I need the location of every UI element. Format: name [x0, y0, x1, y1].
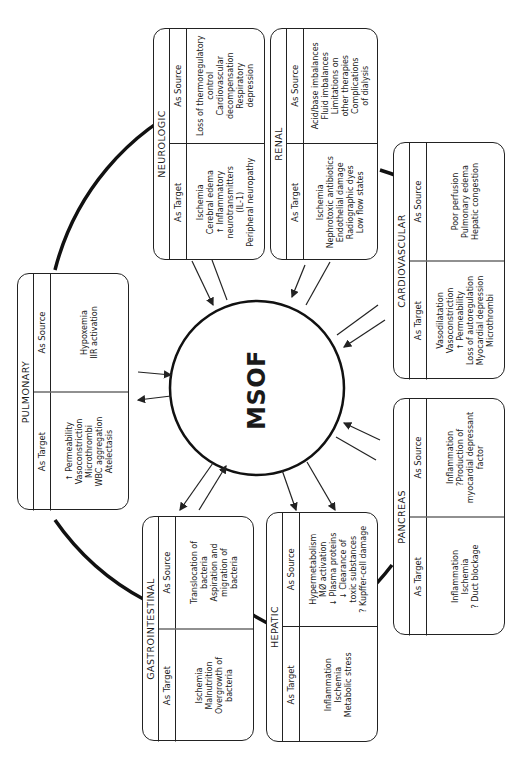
organ-title: PANCREAS: [393, 398, 410, 635]
as-source-column: As Source Inflammation ?Production of my…: [410, 398, 505, 517]
organ-box-cardiovascular: CARDIOVASCULAR As Target Vasodilatation …: [393, 142, 505, 379]
organ-title: RENAL: [270, 28, 287, 260]
as-target-column: As Target ↑ Permeability Vasoconstrictio…: [34, 392, 129, 510]
as-target-column: As Target Ischemia Cerebral edema ↑ Infl…: [170, 145, 265, 261]
organ-box-renal: RENAL As Target Ischemia Nephrotoxic ant…: [270, 28, 378, 260]
organ-title: HEPATIC: [266, 512, 283, 742]
organ-title: CARDIOVASCULAR: [393, 142, 410, 379]
organ-title: GASTROINTESTINAL: [142, 516, 159, 741]
as-source-column: As Source Hypermetabolism MØ activation …: [283, 512, 378, 628]
organ-box-gastrointestinal: GASTROINTESTINAL As Target Ischemia Maln…: [142, 516, 254, 741]
as-target-column: As Target Ischemia Malnutrition Overgrow…: [159, 629, 254, 741]
as-source-column: As Source Poor perfusion Pulmonary edema…: [410, 142, 505, 261]
organ-box-hepatic: HEPATIC As Target Inflammation Ischemia …: [266, 512, 378, 742]
organ-title: PULMONARY: [17, 273, 34, 510]
organ-title: NEUROLOGIC: [153, 28, 170, 260]
as-source-column: As Source Loss of thermoregulatory contr…: [170, 28, 265, 145]
organ-box-neurologic: NEUROLOGIC As Target Ischemia Cerebral e…: [153, 28, 265, 260]
as-source-column: As Source Translocation of bacteria Aspi…: [159, 516, 254, 629]
as-source-column: As Source Hypoxemia IIR activation: [34, 273, 129, 392]
as-target-column: As Target Inflammation Ischemia ? Duct b…: [410, 517, 505, 635]
as-target-column: As Target Vasodilatation Vasoconstrictio…: [410, 261, 505, 379]
msof-label: MSOF: [243, 350, 271, 430]
organ-box-pancreas: PANCREAS As Target Inflammation Ischemia…: [393, 398, 505, 635]
as-target-column: As Target Ischemia Nephrotoxic antibioti…: [287, 145, 378, 261]
as-target-column: As Target Inflammation Ischemia Metaboli…: [283, 628, 378, 743]
as-source-column: As Source Acid/base imbalances Fluid imb…: [287, 28, 378, 145]
organ-box-pulmonary: PULMONARY As Target ↑ Permeability Vasoc…: [17, 273, 129, 510]
